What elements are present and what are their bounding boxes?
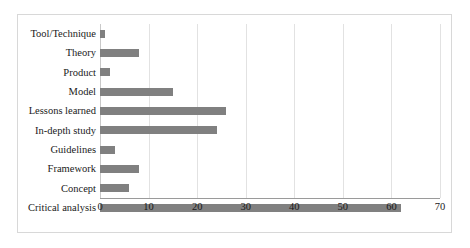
category-label: Guidelines bbox=[20, 140, 96, 159]
category-label: In-depth study bbox=[20, 121, 96, 140]
bar bbox=[100, 30, 105, 38]
x-axis-tick-labels: 010203040506070 bbox=[100, 201, 440, 219]
category-label: Concept bbox=[20, 179, 96, 198]
bar bbox=[100, 146, 115, 154]
x-axis-line bbox=[100, 198, 440, 199]
bar-row bbox=[100, 159, 440, 178]
category-label: Critical analysis bbox=[20, 198, 96, 217]
x-tick-label: 10 bbox=[143, 201, 154, 212]
bar bbox=[100, 88, 173, 96]
bar-series bbox=[100, 24, 440, 198]
category-label: Lessons learned bbox=[20, 101, 96, 120]
bar bbox=[100, 126, 217, 134]
category-label: Theory bbox=[20, 43, 96, 62]
bar bbox=[100, 184, 129, 192]
bar bbox=[100, 165, 139, 173]
bar-row bbox=[100, 82, 440, 101]
x-tick-label: 40 bbox=[289, 201, 300, 212]
x-tick-label: 50 bbox=[338, 201, 349, 212]
bar bbox=[100, 107, 226, 115]
x-tick-label: 0 bbox=[97, 201, 102, 212]
y-axis-category-labels: Tool/TechniqueTheoryProductModelLessons … bbox=[20, 24, 96, 198]
category-label: Tool/Technique bbox=[20, 24, 96, 43]
x-tick-label: 30 bbox=[240, 201, 251, 212]
bar-chart: Tool/TechniqueTheoryProductModelLessons … bbox=[0, 0, 470, 248]
bar-row bbox=[100, 101, 440, 120]
bar bbox=[100, 49, 139, 57]
gridline-70 bbox=[440, 24, 441, 198]
plot-area bbox=[100, 24, 440, 198]
bar-row bbox=[100, 140, 440, 159]
bar-row bbox=[100, 63, 440, 82]
bar-row bbox=[100, 121, 440, 140]
x-tick-label: 20 bbox=[192, 201, 203, 212]
category-label: Model bbox=[20, 82, 96, 101]
bar bbox=[100, 68, 110, 76]
bar-row bbox=[100, 24, 440, 43]
bar-row bbox=[100, 43, 440, 62]
category-label: Framework bbox=[20, 159, 96, 178]
category-label: Product bbox=[20, 63, 96, 82]
bar-row bbox=[100, 179, 440, 198]
x-tick-label: 60 bbox=[386, 201, 397, 212]
x-tick-label: 70 bbox=[435, 201, 446, 212]
